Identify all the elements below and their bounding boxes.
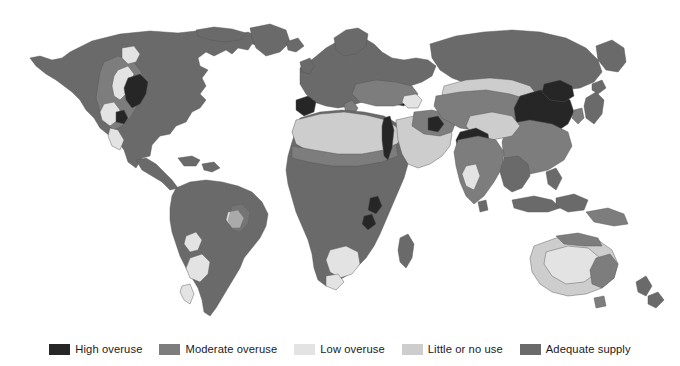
legend-item-low-overuse[interactable]: Low overuse <box>294 343 385 356</box>
legend-item-adequate-supply[interactable]: Adequate supply <box>520 343 631 356</box>
legend-item-little-or-no-use[interactable]: Little or no use <box>402 343 503 356</box>
legend-label-low-overuse: Low overuse <box>320 343 385 356</box>
legend-label-high-overuse: High overuse <box>75 343 142 356</box>
world-map-svg <box>0 0 680 330</box>
as-sri-lanka <box>478 200 488 212</box>
legend-swatch-low-overuse <box>294 344 315 355</box>
oc-tasmania <box>594 296 606 308</box>
legend-swatch-moderate-overuse <box>159 344 180 355</box>
legend-swatch-little-or-no-use <box>402 344 423 355</box>
legend-label-moderate-overuse: Moderate overuse <box>185 343 277 356</box>
legend-label-adequate-supply: Adequate supply <box>546 343 631 356</box>
legend-item-high-overuse[interactable]: High overuse <box>49 343 142 356</box>
world-map-figure <box>0 0 680 330</box>
legend-item-moderate-overuse[interactable]: Moderate overuse <box>159 343 277 356</box>
legend-swatch-high-overuse <box>49 344 70 355</box>
legend-label-little-or-no-use: Little or no use <box>428 343 503 356</box>
water-use-map-page: High overuse Moderate overuse Low overus… <box>0 0 680 366</box>
water-use-legend: High overuse Moderate overuse Low overus… <box>0 336 680 362</box>
legend-swatch-adequate-supply <box>520 344 541 355</box>
